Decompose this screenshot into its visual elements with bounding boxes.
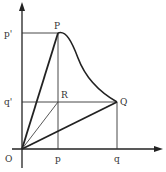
label-Q: Q bbox=[120, 97, 127, 107]
label-q-prime: q' bbox=[4, 97, 12, 107]
label-O: O bbox=[5, 154, 12, 164]
ray-OR bbox=[22, 102, 58, 149]
label-P: P bbox=[54, 21, 60, 31]
rays bbox=[22, 33, 117, 149]
y-axis-arrow-icon bbox=[19, 2, 25, 11]
label-q: q bbox=[114, 154, 120, 164]
guide-lines bbox=[22, 33, 117, 149]
x-axis-arrow-icon bbox=[154, 146, 163, 152]
ray-OP bbox=[22, 33, 58, 149]
diagram: P Q R O p' q' p q bbox=[0, 0, 166, 172]
label-R: R bbox=[61, 90, 68, 100]
label-p: p bbox=[55, 154, 61, 164]
label-p-prime: p' bbox=[4, 29, 12, 39]
ray-OQ bbox=[22, 102, 117, 149]
